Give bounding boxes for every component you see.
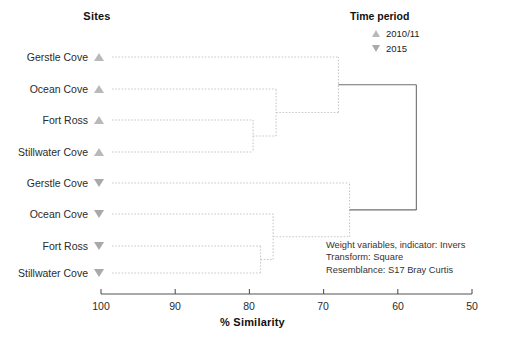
axis-tick-100: 100: [81, 300, 121, 312]
dendrogram-tree: [0, 0, 505, 339]
axis-tick-60: 60: [378, 300, 418, 312]
axis-tick-90: 90: [155, 300, 195, 312]
axis-tick-50: 50: [452, 300, 492, 312]
axis-title: % Similarity: [0, 316, 505, 328]
axis-tick-70: 70: [303, 300, 343, 312]
dendrogram-figure: Sites Time period 2010/11 2015 Gerstle C…: [0, 0, 505, 339]
annotation-line-2: Transform: Square: [326, 251, 465, 263]
annotation-line-1: Weight variables, indicator: Invers: [326, 239, 465, 251]
annotation-line-3: Resemblance: S17 Bray Curtis: [326, 264, 465, 276]
annotation-block: Weight variables, indicator: Invers Tran…: [326, 239, 465, 276]
axis-tick-80: 80: [229, 300, 269, 312]
